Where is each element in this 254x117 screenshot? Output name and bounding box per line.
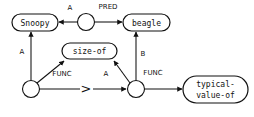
concept-node-typical-value-of-label-line2: value-of <box>196 91 235 100</box>
relation-node-left[interactable] <box>23 81 40 98</box>
concept-node-size-of[interactable]: size-of <box>62 43 117 59</box>
concept-node-typical-value-of-label-line1: typical- <box>196 80 235 89</box>
concept-node-size-of-label: size-of <box>73 47 107 56</box>
edge-mid-to-sizeof <box>114 61 130 83</box>
concept-node-typical-value-of[interactable]: typical- value-of <box>183 76 248 103</box>
arc-label-func-left: FUNC <box>52 70 71 78</box>
diagram-canvas: Snoopy beagle size-of typical- value-of … <box>0 0 254 117</box>
relation-node-mid[interactable] <box>128 81 145 98</box>
concept-node-snoopy-label: Snoopy <box>21 19 50 28</box>
relation-node-pred[interactable] <box>78 14 95 31</box>
concept-node-beagle[interactable]: beagle <box>123 14 170 31</box>
concept-node-snoopy[interactable]: Snoopy <box>12 14 58 31</box>
arc-label-b: B <box>141 50 146 58</box>
arc-label-a-mid: A <box>104 70 109 78</box>
arc-label-a-left: A <box>20 48 25 56</box>
arc-label-a-top: A <box>68 4 73 12</box>
comparison-symbol: > <box>81 81 92 96</box>
arc-label-pred: PRED <box>99 3 118 11</box>
concept-node-beagle-label: beagle <box>132 19 161 28</box>
arc-label-func-right: FUNC <box>143 69 162 77</box>
